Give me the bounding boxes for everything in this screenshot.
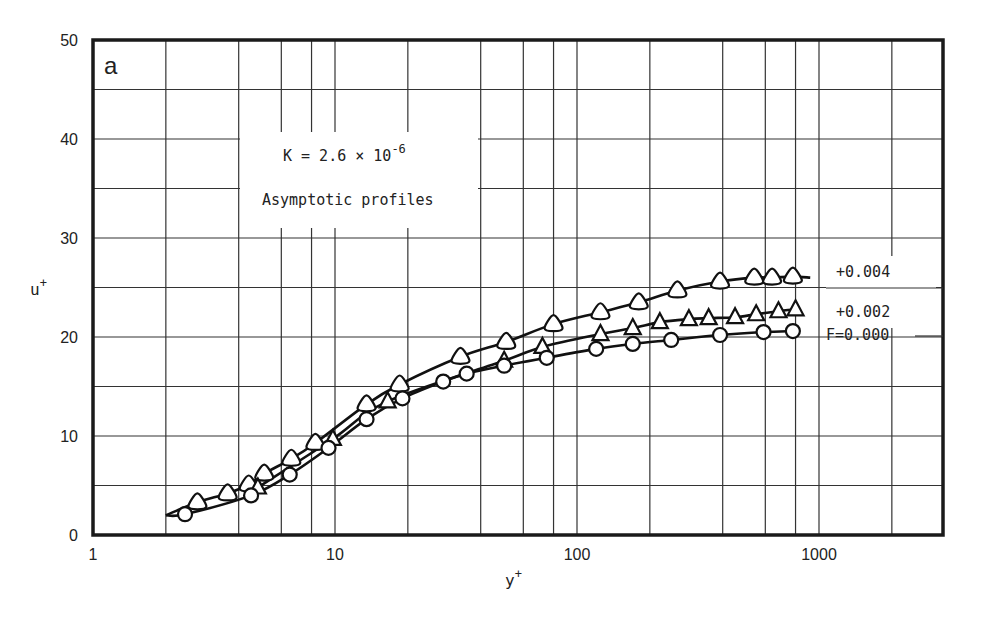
x-axis-label: y+ [505, 567, 522, 590]
circle-marker [321, 441, 335, 455]
triangle-marker [788, 300, 804, 315]
grid-lines [93, 40, 943, 535]
rounded-triangle-marker [391, 376, 409, 392]
series-label: F=0.000 [826, 326, 889, 344]
circle-marker [497, 359, 511, 373]
circle-marker [786, 324, 800, 338]
x-tick-label: 1000 [801, 546, 837, 563]
series-label: +0.004 [836, 263, 890, 281]
rounded-triangle-marker [282, 450, 300, 466]
y-axis-label: u+ [30, 276, 47, 299]
y-tick-label: 0 [69, 527, 78, 544]
circle-marker [664, 333, 678, 347]
rounded-triangle-marker [784, 268, 802, 284]
axis-ticks: 110100100001020304050 [60, 32, 837, 563]
rounded-triangle-marker [711, 273, 729, 289]
annotation-profiles: Asymptotic profiles [262, 191, 434, 209]
x-tick-label: 100 [564, 546, 591, 563]
y-tick-label: 20 [60, 329, 78, 346]
triangle-marker [701, 309, 717, 324]
y-tick-label: 40 [60, 131, 78, 148]
circle-marker [178, 507, 192, 521]
circle-marker [283, 468, 297, 482]
circle-marker [436, 375, 450, 389]
y-tick-label: 10 [60, 428, 78, 445]
y-tick-label: 30 [60, 230, 78, 247]
rounded-triangle-marker [591, 303, 609, 319]
rounded-triangle-marker [668, 281, 686, 297]
chart: 110100100001020304050 a K = 2.6 × 10-6 A… [0, 0, 988, 628]
rounded-triangle-marker [219, 484, 237, 500]
circle-marker [395, 391, 409, 405]
x-tick-label: 1 [89, 546, 98, 563]
rounded-triangle-marker [358, 395, 376, 411]
circle-marker [589, 342, 603, 356]
rounded-triangle-marker [497, 333, 515, 349]
rounded-triangle-marker [545, 315, 563, 331]
data-markers [178, 268, 804, 522]
circle-marker [757, 325, 771, 339]
circle-marker [360, 412, 374, 426]
circle-marker [713, 328, 727, 342]
series-label: +0.002 [836, 303, 890, 321]
y-tick-label: 50 [60, 32, 78, 49]
circle-marker [540, 351, 554, 365]
circle-marker [626, 337, 640, 351]
circle-marker [244, 488, 258, 502]
panel-label: a [104, 52, 118, 79]
rounded-triangle-marker [451, 348, 469, 364]
rounded-triangle-marker [630, 293, 648, 309]
rounded-triangle-marker [188, 493, 206, 509]
rounded-triangle-marker [745, 269, 763, 285]
x-tick-label: 10 [326, 546, 344, 563]
circle-marker [460, 367, 474, 381]
